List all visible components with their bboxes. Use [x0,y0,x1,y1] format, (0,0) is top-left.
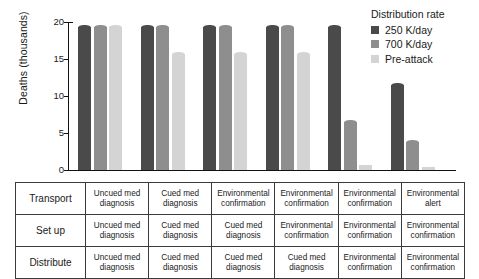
bar-body [109,27,122,170]
table-cell: Uncued med diagnosis [86,183,149,215]
table-row-label: Set up [16,215,86,247]
x-axis-baseline [68,170,456,171]
table-cell: Environmental confirmation [338,215,401,247]
legend-swatch-icon [371,55,379,63]
table-cell: Environmental alert [401,183,464,215]
table-cell: Cued med diagnosis [149,247,212,279]
scenario-matrix: TransportUncued med diagnosisCued med di… [15,182,465,279]
bar [234,52,247,170]
bar-body [328,27,341,170]
table-cell: Environmental confirmation [275,215,338,247]
bar [406,140,419,170]
y-tick-label: 10 [42,90,64,101]
table-cell: Environmental confirmation [338,183,401,215]
y-tick-label: 15 [42,53,64,64]
table-cell: Uncued med diagnosis [86,215,149,247]
bar [391,83,404,170]
table-row-label: Distribute [16,247,86,279]
legend: Distribution rate 250 K/day700 K/dayPre-… [371,8,479,67]
bar-chart: Deaths (thousands) 05101520 Distribution… [0,0,479,178]
table-cell: Cued med diagnosis [149,215,212,247]
legend-item: 700 K/day [371,38,479,51]
table-cell: Environmental confirmation [275,183,338,215]
bar [172,52,185,170]
table-row: Set upUncued med diagnosisCued med diagn… [16,215,465,247]
bar-body [219,27,232,170]
scenario-matrix-table: TransportUncued med diagnosisCued med di… [15,182,465,279]
bar-body [156,27,169,170]
bar-body [406,142,419,170]
legend-item: 250 K/day [371,23,479,36]
bar [422,167,435,170]
bar-body [359,165,372,170]
table-cell: Cued med diagnosis [212,247,275,279]
legend-swatch-icon [371,40,379,48]
y-tick-label: 0 [42,164,64,175]
bar-body [297,54,310,170]
bar [266,25,279,170]
bar-body [422,167,435,170]
bar-body [344,122,357,170]
bar-body [391,85,404,170]
bar [78,25,91,170]
legend-title: Distribution rate [371,8,479,20]
bar-body [172,54,185,170]
bar-group [141,22,188,170]
y-tick-label: 20 [42,16,64,27]
bar-body [234,54,247,170]
bar [156,25,169,170]
bar [297,52,310,170]
bar-body [281,27,294,170]
bar-body [141,27,154,170]
legend-item-label: Pre-attack [385,53,433,65]
legend-item-label: 250 K/day [385,24,432,36]
bar [219,25,232,170]
legend-swatch-icon [371,26,379,34]
table-row: TransportUncued med diagnosisCued med di… [16,183,465,215]
bar [94,25,107,170]
bar [141,25,154,170]
legend-item-label: 700 K/day [385,38,432,50]
legend-item: Pre-attack [371,52,479,65]
bar-body [78,27,91,170]
scenario-matrix-body: TransportUncued med diagnosisCued med di… [16,183,465,279]
y-axis-title: Deaths (thousands) [17,0,29,128]
bar-body [203,27,216,170]
table-row: DistributeUncued med diagnosisCued med d… [16,247,465,279]
table-cell: Environmental confirmation [401,215,464,247]
bar-body [94,27,107,170]
table-cell: Cued med diagnosis [212,215,275,247]
bar [281,25,294,170]
bar [109,25,122,170]
y-tick-label: 5 [42,127,64,138]
table-row-label: Transport [16,183,86,215]
y-tick-mark [64,170,69,171]
bar [344,120,357,170]
table-cell: Environmental confirmation [212,183,275,215]
bar-group [328,22,375,170]
table-cell: Cued med diagnosis [149,183,212,215]
legend-items: 250 K/day700 K/dayPre-attack [371,23,479,65]
table-cell: Environmental confirmation [401,247,464,279]
figure-root: Deaths (thousands) 05101520 Distribution… [0,0,479,279]
bar-group [266,22,313,170]
bar-body [266,27,279,170]
bar [203,25,216,170]
bar-group [203,22,250,170]
table-cell: Environmental confirmation [338,247,401,279]
bar-group [78,22,125,170]
bar [359,165,372,170]
bar [328,25,341,170]
table-cell: Cued med diagnosis [275,247,338,279]
table-cell: Uncued med diagnosis [86,247,149,279]
